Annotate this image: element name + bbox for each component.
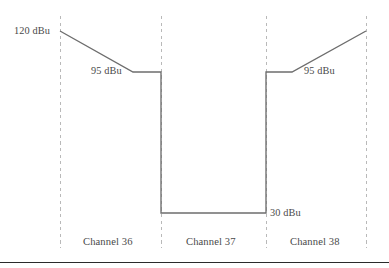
channel-label-37: Channel 37: [186, 236, 236, 248]
spectrum-mask-figure: 120 dBu 95 dBu 30 dBu 95 dBu Channel 36 …: [0, 0, 389, 268]
level-label-95-dbu-right: 95 dBu: [304, 65, 335, 77]
signal-level-trace: [60, 31, 366, 213]
level-label-30-dbu: 30 dBu: [270, 207, 301, 219]
channel-label-38: Channel 38: [290, 236, 340, 248]
channel-label-36: Channel 36: [83, 236, 133, 248]
level-label-95-dbu-left: 95 dBu: [91, 65, 122, 77]
spectrum-mask-plot: [0, 0, 389, 268]
level-label-120-dbu: 120 dBu: [14, 25, 50, 37]
